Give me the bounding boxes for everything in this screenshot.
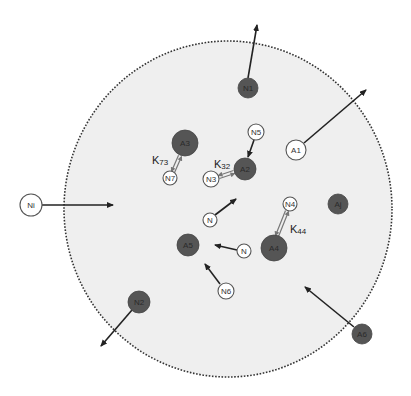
node-n6: N6	[218, 283, 234, 299]
node-label: N1	[243, 84, 254, 93]
node-label: N7	[165, 174, 176, 183]
node-ni: Ni	[20, 194, 42, 216]
node-label: A5	[183, 241, 193, 250]
node-label: A2	[240, 165, 250, 174]
node-label: Aj	[334, 200, 341, 209]
node-label: N2	[134, 298, 145, 307]
node-n1: N1	[238, 78, 258, 98]
node-a4: A4	[261, 235, 287, 261]
node-a1: A1	[286, 140, 306, 160]
node-n_a: N	[203, 213, 217, 227]
node-label: N	[241, 247, 247, 256]
node-n5: N5	[248, 124, 264, 140]
node-aj: Aj	[328, 194, 348, 214]
node-label: A4	[269, 244, 279, 253]
node-a2: A2	[234, 158, 256, 180]
node-label: A1	[291, 146, 301, 155]
node-label: Ni	[27, 201, 35, 210]
node-n_b: N	[237, 244, 251, 258]
node-a5: A5	[177, 234, 199, 256]
node-label: N5	[251, 128, 262, 137]
node-n4: N4	[283, 197, 297, 211]
node-n2: N2	[128, 291, 150, 313]
node-a3: A3	[172, 130, 198, 156]
diagram-canvas: N1A1N5A2N3A3N7NiNAjN4A4NA5N6N2A6 K73K32K…	[0, 0, 411, 396]
node-label: A3	[180, 139, 190, 148]
node-label: N4	[285, 200, 296, 209]
node-a6: A6	[352, 324, 372, 344]
node-n7: N7	[163, 171, 177, 185]
node-label: N6	[221, 287, 232, 296]
node-label: A6	[357, 330, 367, 339]
node-n3: N3	[203, 171, 219, 187]
node-label: N3	[206, 175, 217, 184]
node-label: N	[207, 216, 213, 225]
